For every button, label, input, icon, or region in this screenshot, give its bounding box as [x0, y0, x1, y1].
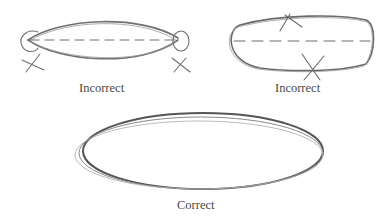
caption-correct: Correct — [177, 198, 214, 213]
figure-correct-ellipse — [75, 113, 323, 189]
x-mark-icon — [302, 54, 324, 80]
ellipse-sketches — [0, 0, 391, 218]
caption-incorrect-2: Incorrect — [275, 81, 320, 96]
caption-incorrect-1: Incorrect — [79, 81, 124, 96]
x-mark-icon — [22, 54, 44, 72]
figure-flat-ellipse — [229, 14, 373, 80]
x-mark-icon — [172, 58, 190, 72]
figure-pointed-ellipse — [21, 22, 190, 72]
